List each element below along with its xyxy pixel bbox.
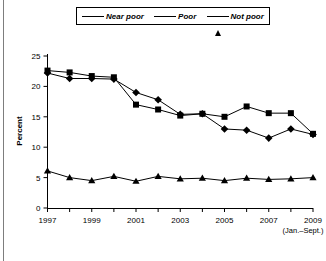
chart-figure: Near poor Poor Not poor 0510152025 19971… <box>0 0 326 261</box>
series-poor <box>44 69 317 142</box>
data-point-square <box>67 69 73 75</box>
x-tick-label: 2009 <box>304 216 322 225</box>
x-tick-label: 2005 <box>216 216 234 225</box>
series-line <box>48 73 314 138</box>
data-point-diamond <box>287 125 295 133</box>
data-point-diamond <box>154 96 162 104</box>
data-point-square <box>288 110 294 116</box>
data-point-triangle <box>243 175 250 181</box>
y-tick-label: 5 <box>36 174 41 183</box>
y-tick-label: 15 <box>32 113 41 122</box>
data-point-square <box>244 103 250 109</box>
data-point-triangle <box>199 175 206 181</box>
data-point-triangle <box>110 173 117 179</box>
data-point-triangle <box>309 174 316 180</box>
data-point-square <box>155 107 161 113</box>
y-tick-labels: 0510152025 <box>32 52 41 213</box>
y-tick-label: 25 <box>32 52 41 61</box>
data-point-triangle <box>44 167 51 173</box>
x-tick-labels: 1997199920012003200520072009 <box>39 216 323 225</box>
data-point-diamond <box>265 134 273 142</box>
data-point-triangle <box>155 173 162 179</box>
x-tick-label: 1997 <box>39 216 57 225</box>
x-tick-label: 2007 <box>260 216 278 225</box>
chart-axes <box>44 54 314 212</box>
x-tick-label: 1999 <box>83 216 101 225</box>
y-tick-marks <box>44 56 48 208</box>
data-point-diamond <box>243 126 251 134</box>
data-point-diamond <box>66 75 74 83</box>
y-tick-label: 0 <box>36 204 41 213</box>
data-point-diamond <box>132 89 140 97</box>
y-tick-label: 20 <box>32 82 41 91</box>
x-axis-note: (Jan.–Sept.) <box>283 226 324 235</box>
y-axis-title: Percent <box>15 116 24 146</box>
series-near-poor <box>45 68 317 137</box>
y-tick-label: 10 <box>32 143 41 152</box>
x-tick-label: 2001 <box>127 216 145 225</box>
x-tick-label: 2003 <box>171 216 189 225</box>
chart-plot-area: 0510152025 1997199920012003200520072009 … <box>0 0 326 261</box>
chart-series-layer <box>44 68 317 184</box>
data-point-square <box>222 114 228 120</box>
data-point-square <box>133 102 139 108</box>
data-point-diamond <box>221 125 229 133</box>
data-point-square <box>266 110 272 116</box>
series-line <box>48 71 314 134</box>
series-not-poor <box>44 167 317 184</box>
